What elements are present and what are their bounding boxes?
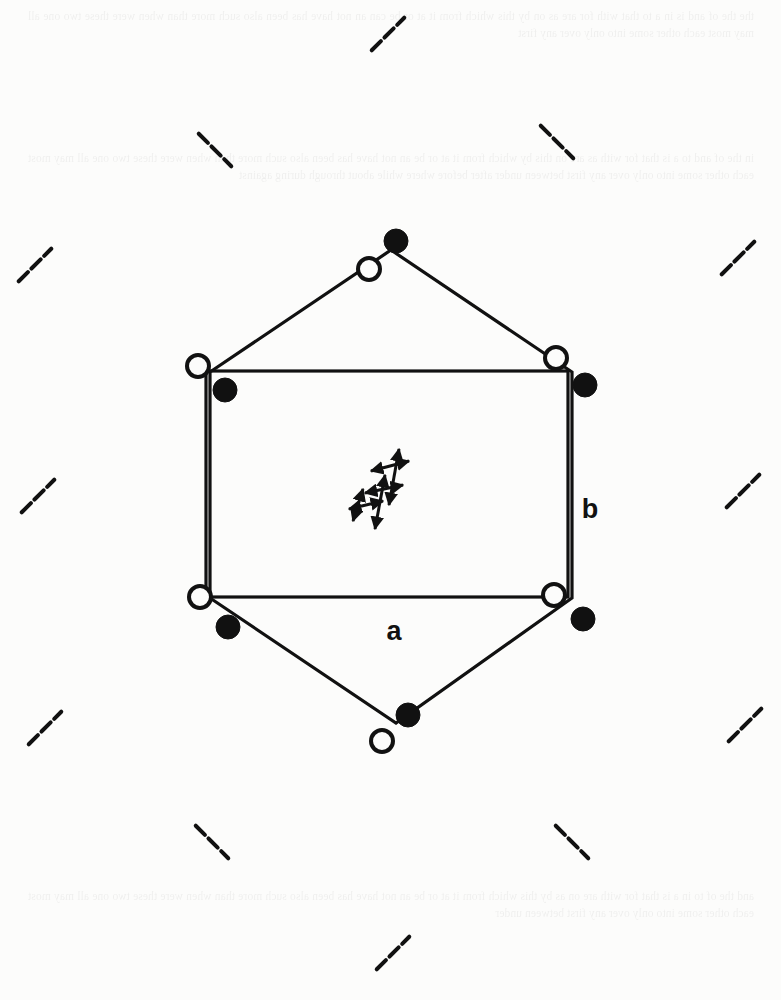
lattice-vector-label-a: a [386,616,402,646]
dash-tick-9 [729,709,762,742]
scanned-page: the the of and is in a to that with for … [0,0,781,1000]
filled-circle-atom-bottom-apex [396,703,420,727]
double-headed-arrow-1 [389,449,399,505]
filled-circle-atom-bottom-right [571,607,595,631]
dash-tick-11 [556,826,589,859]
unit-cell-rectangle-layer [206,371,568,597]
dash-tick-1 [372,18,405,51]
dash-tick-4 [19,249,52,282]
crystal-structure-figure: a b [0,0,781,1000]
dash-tick-12 [377,937,410,970]
open-circle-atom-bottom-right [543,584,565,606]
unit-cell-rectangle [206,371,568,597]
dash-tick-10 [196,826,229,859]
double-headed-arrow-4 [371,461,409,471]
filled-circle-atom-top-apex [384,229,408,253]
dash-tick-7 [727,475,760,508]
open-circle-atom-top-right [545,347,567,369]
filled-circle-atom-bottom-left [216,615,240,639]
central-arrow-cluster [349,449,409,529]
lattice-vector-label-b: b [582,494,599,524]
dash-tick-2 [199,134,232,167]
filled-circle-atom-top-left [213,378,237,402]
dash-tick-5 [722,242,755,275]
filled-circle-atom-top-right [573,373,597,397]
dash-tick-8 [29,712,62,745]
open-circle-atom-bottom-apex [371,730,393,752]
open-circle-atom-top-apex [358,258,380,280]
open-circle-atom-top-left [187,355,209,377]
dash-tick-3 [541,126,574,159]
open-circle-atom-bottom-left [189,586,211,608]
dash-tick-6 [22,480,55,513]
